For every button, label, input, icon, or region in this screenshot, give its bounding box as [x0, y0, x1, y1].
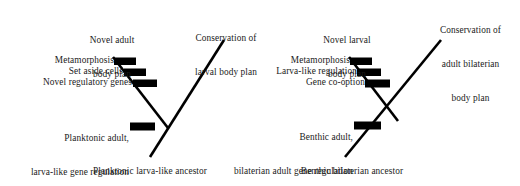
left-main-branch-label-line1: Conservation of [178, 33, 274, 44]
right-main-branch-label-line3: body plan [423, 93, 518, 104]
right-main-branch-label-line1: Conservation of [423, 25, 518, 36]
left-event-label-set-aside-cells: Set aside cells [5, 66, 123, 77]
right-event-label-larva-like-regulation: Larva-like regulation [240, 66, 357, 77]
right-main-branch-label: Conservation of adult bilaterian body pl… [423, 2, 518, 127]
left-upper-branch-label-line1: Novel adult [58, 35, 166, 46]
evolution-scenarios-figure: Novel adult body plan Conservation of la… [0, 0, 520, 186]
right-stem-event-label-line1: Benthic adult, [215, 132, 353, 143]
left-event-bar-planktonic-adult [130, 123, 155, 131]
left-stem-event-label-line1: Planktonic adult, [2, 133, 129, 144]
left-event-label-metamorphosis: Metamorphosis [5, 55, 114, 66]
right-upper-branch-label-line1: Novel larval [293, 35, 401, 46]
right-event-label-gene-co-option: Gene co-option [240, 77, 365, 88]
right-event-bar-benthic-adult [354, 122, 381, 130]
right-main-branch-label-line2: adult bilaterian [423, 59, 518, 70]
right-root-label: Benthic bilaterian ancestor [252, 166, 452, 177]
right-event-label-metamorphosis: Metamorphosis [240, 55, 350, 66]
left-event-label-novel-regulatory-genes: Novel regulatory genes [5, 77, 132, 88]
